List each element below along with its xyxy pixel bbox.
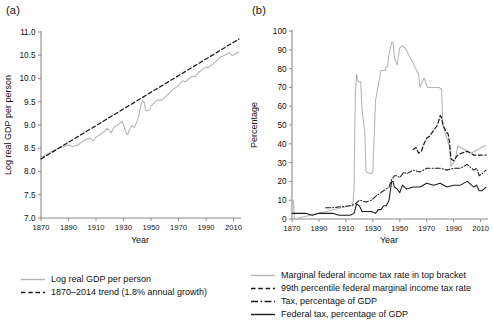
svg-text:1930: 1930 [115, 223, 132, 232]
svg-text:7.0: 7.0 [24, 214, 36, 223]
svg-text:10.0: 10.0 [20, 74, 36, 83]
legend-line-swatch [250, 283, 276, 293]
panel-a-plot: 7.07.58.08.59.09.510.010.511.01870189019… [0, 0, 246, 250]
legend-line-swatch [20, 274, 46, 284]
legend-item: Tax, percentage of GDP [250, 294, 471, 307]
svg-text:20: 20 [277, 177, 287, 186]
legend-label: Log real GDP per person [51, 274, 151, 284]
panel-a: (a) 7.07.58.08.59.09.510.010.511.0187018… [0, 0, 246, 336]
svg-text:1950: 1950 [143, 223, 160, 232]
svg-text:1970: 1970 [170, 223, 187, 232]
svg-text:30: 30 [277, 159, 287, 168]
panel-a-legend: Log real GDP per person1870–2014 trend (… [20, 272, 207, 298]
svg-text:Year: Year [131, 235, 149, 245]
panel-b: (b) 010203040506070809010018701890191019… [246, 0, 492, 336]
svg-text:1990: 1990 [445, 224, 462, 233]
legend-label: 99th percentile federal marginal income … [281, 283, 471, 293]
svg-text:9.5: 9.5 [24, 98, 36, 107]
panel-b-legend: Marginal federal income tax rate in top … [250, 268, 471, 320]
legend-label: Federal tax, percentage of GDP [281, 309, 408, 319]
legend-label: 1870–2014 trend (1.8% annual growth) [51, 287, 207, 297]
legend-line-swatch [250, 270, 276, 280]
svg-text:1890: 1890 [310, 224, 327, 233]
svg-text:Percentage: Percentage [249, 102, 259, 148]
legend-item: 99th percentile federal marginal income … [250, 281, 471, 294]
svg-text:11.0: 11.0 [20, 28, 36, 37]
svg-text:10: 10 [277, 196, 287, 205]
svg-text:2010: 2010 [472, 224, 489, 233]
svg-text:50: 50 [277, 121, 287, 130]
svg-text:60: 60 [277, 102, 287, 111]
svg-text:2010: 2010 [225, 223, 242, 232]
svg-text:1910: 1910 [337, 224, 354, 233]
svg-text:Year: Year [380, 235, 398, 245]
legend-label: Marginal federal income tax rate in top … [281, 270, 466, 280]
svg-text:Log real GDP per person: Log real GDP per person [3, 75, 13, 175]
svg-text:9.0: 9.0 [24, 121, 36, 130]
panel-b-plot: 0102030405060708090100187018901910193019… [246, 0, 493, 250]
svg-text:1990: 1990 [198, 223, 215, 232]
legend-item: 1870–2014 trend (1.8% annual growth) [20, 285, 207, 298]
legend-label: Tax, percentage of GDP [281, 296, 377, 306]
legend-line-swatch [250, 309, 276, 319]
svg-text:90: 90 [277, 46, 287, 55]
svg-text:1890: 1890 [60, 223, 77, 232]
svg-text:40: 40 [277, 140, 287, 149]
svg-text:10.5: 10.5 [20, 51, 36, 60]
legend-line-swatch [250, 296, 276, 306]
figure-root: (a) 7.07.58.08.59.09.510.010.511.0187018… [0, 0, 493, 336]
svg-text:1910: 1910 [88, 223, 105, 232]
legend-item: Log real GDP per person [20, 272, 207, 285]
svg-text:70: 70 [277, 83, 287, 92]
svg-text:7.5: 7.5 [24, 191, 36, 200]
svg-text:80: 80 [277, 65, 287, 74]
legend-line-swatch [20, 287, 46, 297]
svg-text:1950: 1950 [391, 224, 408, 233]
svg-text:8.0: 8.0 [24, 167, 36, 176]
legend-item: Marginal federal income tax rate in top … [250, 268, 471, 281]
svg-text:8.5: 8.5 [24, 144, 36, 153]
svg-text:1870: 1870 [284, 224, 301, 233]
svg-text:0: 0 [282, 215, 287, 224]
svg-text:1930: 1930 [364, 224, 381, 233]
svg-text:100: 100 [273, 27, 287, 36]
svg-text:1870: 1870 [33, 223, 50, 232]
legend-item: Federal tax, percentage of GDP [250, 307, 471, 320]
svg-text:1970: 1970 [418, 224, 435, 233]
